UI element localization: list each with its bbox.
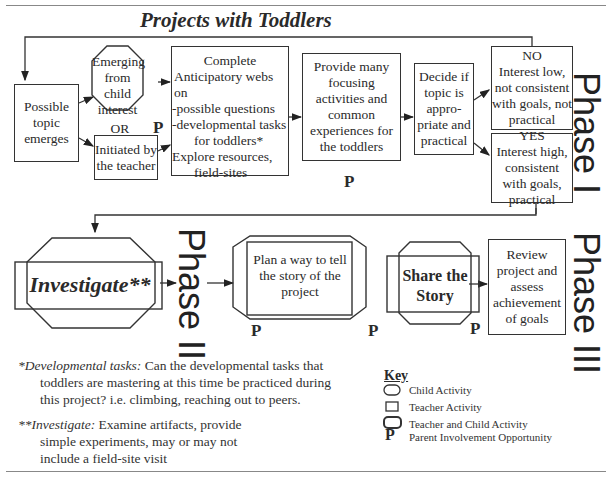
top-rule: [6, 5, 606, 6]
dev-tasks-footnote: *Developmental tasks: Can the developmen…: [18, 357, 348, 408]
bottom-rule: [6, 471, 606, 472]
parent-marker: P: [368, 321, 378, 341]
key-label-child: Child Activity: [409, 384, 472, 396]
plan-way-text: Plan a way to tell the story of the proj…: [252, 252, 348, 300]
complete-webs-box: Complete Anticipatory webs on -possible …: [171, 46, 289, 176]
share-story-text: Share the Story: [395, 266, 475, 306]
parent-marker: P: [344, 172, 354, 192]
phase-2-label: Phase II: [170, 228, 212, 360]
child-activity-icon: [384, 385, 400, 395]
key-title: Key: [384, 368, 408, 384]
decide-appropriate-box: Decide if topic is appro-priate and prac…: [414, 63, 474, 155]
key-icons: [382, 384, 404, 456]
key-label-teacher: Teacher Activity: [409, 401, 482, 413]
investigate-label: Investigate**: [20, 272, 160, 298]
yes-decision-box: YES Interest high, consistent with goals…: [491, 133, 573, 203]
diagram-title: Projects with Toddlers: [140, 8, 332, 33]
review-goals-box: Review project and assess achievement of…: [488, 239, 566, 335]
teacher-activity-icon: [386, 402, 398, 411]
emerging-child-text: Emerging from child interest: [92, 54, 143, 118]
phase-3-label: Phase III: [565, 232, 607, 374]
key-label-parent: Parent Involvement Opportunity: [409, 431, 552, 443]
parent-involvement-key-icon: P: [385, 426, 395, 444]
possible-topic-box: Possible topic emerges: [14, 84, 79, 162]
parent-marker: P: [470, 319, 480, 339]
key-label-teacher-child: Teacher and Child Activity: [409, 418, 528, 430]
initiated-teacher-box: Initiated by the teacher: [94, 135, 158, 180]
investigate-footnote: **Investigate: Examine artifacts, provid…: [18, 416, 348, 467]
no-decision-box: NO Interest low, not consistent with goa…: [491, 46, 573, 130]
provide-activities-box: Provide many focusing activities and com…: [302, 53, 401, 161]
parent-marker: P: [251, 321, 261, 341]
